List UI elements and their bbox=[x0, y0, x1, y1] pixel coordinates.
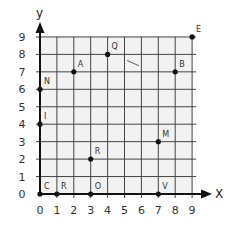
y-tick-label: 4 bbox=[19, 118, 26, 131]
point-label: M bbox=[162, 130, 169, 139]
y-axis-label: y bbox=[36, 6, 43, 20]
point-marker-icon bbox=[88, 157, 93, 162]
point-label: I bbox=[44, 112, 46, 121]
x-tick-labels: 0123456789 bbox=[37, 204, 196, 217]
x-tick-label: 1 bbox=[53, 204, 60, 217]
point-label: N bbox=[44, 77, 50, 86]
x-tick-label: 5 bbox=[121, 204, 128, 217]
point-label: O bbox=[95, 182, 101, 191]
grid-background bbox=[40, 37, 192, 194]
point-marker-icon bbox=[71, 69, 76, 74]
x-tick-label: 8 bbox=[172, 204, 179, 217]
y-tick-labels: 0123456789 bbox=[19, 31, 26, 201]
y-tick-label: 3 bbox=[19, 136, 26, 149]
coordinate-grid-diagram: X y 0123456789 0123456789 CROVRMINABQE bbox=[0, 0, 228, 233]
x-tick-label: 3 bbox=[87, 204, 94, 217]
point-marker-icon bbox=[54, 191, 59, 196]
y-tick-label: 6 bbox=[19, 83, 26, 96]
point-label: A bbox=[78, 60, 84, 69]
point-marker-icon bbox=[190, 34, 195, 39]
x-tick-label: 6 bbox=[138, 204, 145, 217]
point-marker-icon bbox=[88, 191, 93, 196]
y-tick-label: 1 bbox=[19, 171, 26, 184]
point-marker-icon bbox=[173, 69, 178, 74]
point-label: R bbox=[61, 182, 67, 191]
point-marker-icon bbox=[37, 122, 42, 127]
point-label: C bbox=[44, 182, 50, 191]
point-marker-icon bbox=[105, 52, 110, 57]
point-label: R bbox=[95, 147, 101, 156]
x-axis-arrow-icon bbox=[201, 190, 212, 199]
point-marker-icon bbox=[37, 191, 42, 196]
y-tick-label: 0 bbox=[19, 188, 26, 201]
x-axis-label: X bbox=[215, 187, 223, 201]
x-tick-label: 0 bbox=[37, 204, 44, 217]
point-marker-icon bbox=[37, 87, 42, 92]
point-marker-icon bbox=[156, 191, 161, 196]
point-label: Q bbox=[112, 42, 118, 51]
point-marker-icon bbox=[156, 139, 161, 144]
point-label: B bbox=[179, 60, 185, 69]
y-tick-label: 5 bbox=[19, 101, 26, 114]
y-tick-label: 8 bbox=[19, 48, 26, 61]
x-tick-label: 9 bbox=[189, 204, 196, 217]
point-label: V bbox=[162, 182, 168, 191]
y-tick-label: 7 bbox=[19, 66, 26, 79]
x-tick-label: 4 bbox=[104, 204, 111, 217]
x-tick-label: 7 bbox=[155, 204, 162, 217]
x-tick-label: 2 bbox=[70, 204, 77, 217]
y-axis-arrow-icon bbox=[36, 22, 45, 33]
y-tick-label: 2 bbox=[19, 153, 26, 166]
y-tick-label: 9 bbox=[19, 31, 26, 44]
point-label: E bbox=[196, 25, 201, 34]
